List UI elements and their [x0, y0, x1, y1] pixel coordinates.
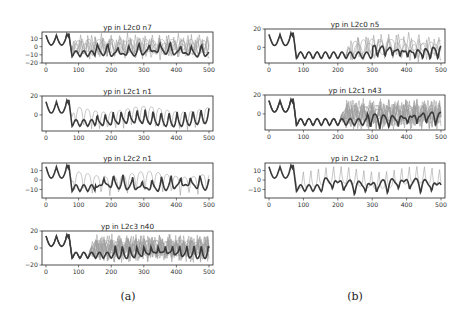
x-tick-label: 200: [332, 201, 344, 208]
subplot-title: yp in L2c3 n40: [101, 222, 154, 231]
y-tick-label: 10: [253, 167, 261, 174]
x-tick-label: 0: [44, 201, 48, 208]
subplot-b2: yp in L2c1 n430100200300400500200: [253, 86, 447, 141]
y-tick-label: −10: [25, 186, 38, 193]
subplot-title: yp in L2c1 n1: [103, 87, 151, 96]
x-tick-label: 400: [401, 133, 413, 140]
trace-main: [46, 100, 209, 127]
caption-a: (a): [120, 290, 135, 303]
x-tick-label: 100: [297, 201, 309, 208]
series-group: [269, 98, 441, 129]
x-tick-label: 100: [297, 133, 309, 140]
x-tick-label: 200: [332, 133, 344, 140]
subplot-title: yp in L2c2 n1: [331, 154, 379, 163]
y-tick-label: −10: [248, 186, 261, 193]
x-tick-label: 400: [170, 134, 182, 141]
y-tick-label: 10: [30, 35, 38, 42]
x-tick-label: 300: [138, 134, 150, 141]
y-tick-label: 0: [34, 111, 38, 118]
subplot-title: yp in L2c0 n5: [331, 20, 379, 29]
series-group: [46, 100, 209, 130]
x-tick-label: 400: [170, 66, 182, 73]
y-tick-label: 10: [30, 167, 38, 174]
x-tick-label: 0: [267, 66, 271, 73]
x-tick-label: 100: [73, 268, 85, 275]
x-tick-label: 200: [332, 66, 344, 73]
x-tick-label: 100: [297, 66, 309, 73]
y-tick-label: 0: [257, 44, 261, 51]
subplot-title: yp in L2c0 n7: [103, 23, 151, 32]
subplot-grid: yp in L2c0 n70100200300400500100−10−20yp…: [25, 20, 447, 276]
series-group: [46, 33, 209, 60]
series-group: [269, 165, 441, 194]
x-tick-label: 0: [44, 134, 48, 141]
y-tick-label: 0: [257, 176, 261, 183]
series-group: [269, 32, 441, 62]
x-tick-label: 500: [203, 134, 215, 141]
x-tick-label: 300: [366, 66, 378, 73]
subplot-a1: yp in L2c0 n70100200300400500100−10−20: [25, 23, 215, 74]
x-tick-label: 300: [138, 201, 150, 208]
y-tick-label: −20: [25, 59, 38, 66]
x-tick-label: 0: [267, 133, 271, 140]
x-tick-label: 500: [203, 66, 215, 73]
caption-b: (b): [347, 290, 363, 303]
series-group: [46, 234, 209, 263]
y-tick-label: 0: [34, 244, 38, 251]
x-tick-label: 500: [435, 133, 447, 140]
y-tick-label: −10: [25, 51, 38, 58]
y-tick-label: 0: [34, 43, 38, 50]
x-tick-label: 0: [44, 66, 48, 73]
y-tick-label: 20: [253, 91, 261, 98]
subplot-b3: yp in L2c2 n10100200300400500100−10: [248, 154, 447, 209]
x-tick-label: 200: [105, 268, 117, 275]
subplot-title: yp in L2c2 n1: [103, 154, 151, 163]
x-tick-label: 300: [366, 201, 378, 208]
series-group: [46, 165, 209, 196]
y-tick-label: 0: [257, 110, 261, 117]
subplot-a4: yp in L2c3 n400100200300400500200−20: [25, 222, 215, 276]
y-tick-label: 20: [30, 227, 38, 234]
x-tick-label: 500: [203, 268, 215, 275]
x-tick-label: 200: [105, 201, 117, 208]
x-tick-label: 0: [44, 268, 48, 275]
x-tick-label: 300: [366, 133, 378, 140]
x-tick-label: 100: [73, 134, 85, 141]
x-tick-label: 500: [435, 66, 447, 73]
trace-main: [46, 165, 209, 192]
x-tick-label: 200: [105, 134, 117, 141]
x-tick-label: 400: [401, 66, 413, 73]
y-tick-label: 0: [34, 176, 38, 183]
x-tick-label: 100: [73, 201, 85, 208]
y-tick-label: −20: [25, 261, 38, 268]
x-tick-label: 400: [401, 201, 413, 208]
subplot-a2: yp in L2c1 n10100200300400500200: [30, 87, 215, 142]
x-tick-label: 400: [170, 268, 182, 275]
x-tick-label: 300: [138, 66, 150, 73]
x-tick-label: 200: [105, 66, 117, 73]
x-tick-label: 500: [203, 201, 215, 208]
subplot-b1: yp in L2c0 n50100200300400500200: [253, 20, 447, 74]
x-tick-label: 0: [267, 201, 271, 208]
subplot-a3: yp in L2c2 n10100200300400500100−10: [25, 154, 215, 209]
x-tick-label: 500: [435, 201, 447, 208]
y-tick-label: 20: [30, 92, 38, 99]
x-tick-label: 100: [73, 66, 85, 73]
subplot-title: yp in L2c1 n43: [328, 86, 381, 95]
x-tick-label: 400: [170, 201, 182, 208]
figure: yp in L2c0 n70100200300400500100−10−20yp…: [0, 0, 458, 318]
y-tick-label: 20: [253, 25, 261, 32]
x-tick-label: 300: [138, 268, 150, 275]
